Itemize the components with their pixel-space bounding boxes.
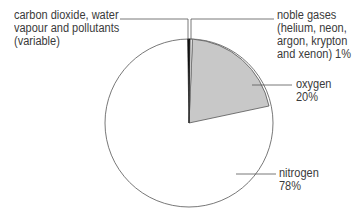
leader-co2	[120, 19, 188, 40]
label-noble-gases: noble gases (helium, neon, argon, krypto…	[277, 9, 351, 61]
label-co2: carbon dioxide, water vapour and polluta…	[14, 9, 119, 48]
label-nitrogen: nitrogen 78%	[279, 167, 319, 193]
label-oxygen: oxygen 20%	[296, 78, 331, 104]
leader-noble	[191, 19, 274, 40]
